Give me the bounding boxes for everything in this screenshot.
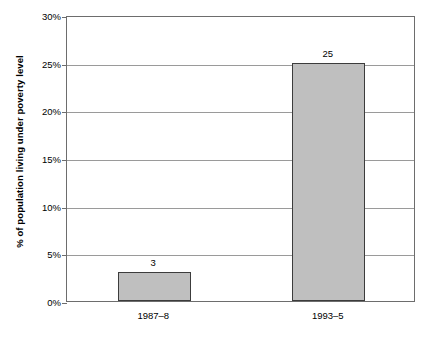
plot-area bbox=[66, 16, 415, 302]
y-axis-tick-label: 5% bbox=[11, 249, 61, 260]
bar-value-label: 3 bbox=[151, 257, 156, 268]
y-axis-tick-label: 30% bbox=[11, 11, 61, 22]
x-axis-tick-label: 1993–5 bbox=[312, 310, 344, 321]
y-axis-tick-label: 0% bbox=[11, 297, 61, 308]
y-axis-tick-label: 25% bbox=[11, 58, 61, 69]
y-axis-tick bbox=[62, 160, 67, 161]
bar-chart: % of population living under poverty lev… bbox=[0, 0, 435, 337]
y-axis-tick bbox=[62, 17, 67, 18]
y-axis-tick-label: 10% bbox=[11, 201, 61, 212]
x-axis-tick-label: 1987–8 bbox=[137, 310, 169, 321]
y-axis-tick bbox=[62, 65, 67, 66]
y-axis-tick-label: 20% bbox=[11, 106, 61, 117]
y-axis-tick bbox=[62, 255, 67, 256]
y-axis-tick bbox=[62, 208, 67, 209]
bar bbox=[118, 272, 191, 301]
bar-value-label: 25 bbox=[322, 48, 333, 59]
y-axis-tick bbox=[62, 303, 67, 304]
bar bbox=[292, 63, 365, 301]
y-axis-tick bbox=[62, 112, 67, 113]
y-axis-tick-label: 15% bbox=[11, 154, 61, 165]
